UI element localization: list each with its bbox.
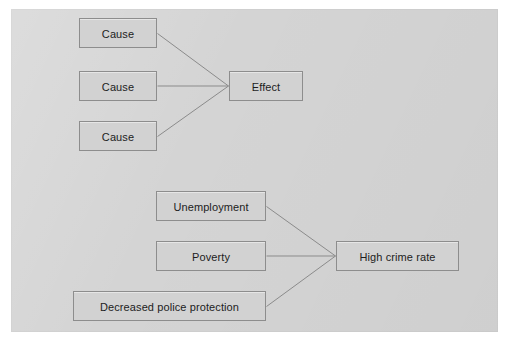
node-cause-1[interactable]: Cause <box>79 18 157 48</box>
node-label: Cause <box>102 81 134 92</box>
node-cause-2[interactable]: Cause <box>79 71 157 101</box>
node-label: Cause <box>102 28 134 39</box>
node-label: Unemployment <box>173 201 248 212</box>
node-label: Poverty <box>192 251 230 262</box>
node-label: Decreased police protection <box>100 301 239 312</box>
node-high-crime-rate[interactable]: High crime rate <box>336 241 459 271</box>
node-unemployment[interactable]: Unemployment <box>156 191 266 221</box>
node-label: Effect <box>252 81 281 92</box>
node-label: High crime rate <box>359 251 435 262</box>
node-effect[interactable]: Effect <box>229 71 303 101</box>
diagram-canvas: Cause Cause Cause Effect Unemployment Po… <box>0 0 521 344</box>
node-poverty[interactable]: Poverty <box>156 241 266 271</box>
node-decreased-police-protection[interactable]: Decreased police protection <box>73 291 266 321</box>
slide-panel <box>11 9 498 332</box>
node-label: Cause <box>102 131 134 142</box>
node-cause-3[interactable]: Cause <box>79 121 157 151</box>
